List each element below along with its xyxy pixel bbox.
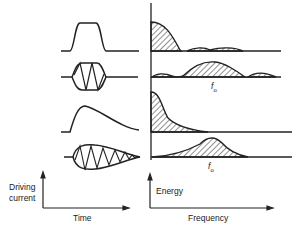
spectrum-row-1 [151, 22, 181, 51]
spectrum-row-3 [151, 92, 208, 132]
spectrum-row-4 [152, 138, 248, 157]
time-label: Time [73, 213, 92, 223]
square-pulse-waveform [61, 23, 139, 51]
spectrum-row-2 [152, 62, 245, 77]
frequency-label: Frequency [188, 213, 228, 223]
diagram-canvas [0, 0, 303, 233]
spectrum-row-1-sidelobes [187, 48, 243, 51]
f0-marker-row-4: fo [208, 161, 214, 175]
energy-label: Energy [156, 186, 183, 196]
exponential-decay-waveform [61, 106, 139, 132]
driving-current-label-line1: Driving [9, 182, 35, 192]
driving-current-label-line2: current [9, 193, 35, 203]
spectrum-row-2-sidelobes [248, 73, 276, 77]
modulated-pulse-waveform [61, 63, 138, 90]
f0-marker-row-2: fo [211, 81, 217, 95]
damped-oscillation-waveform [64, 145, 140, 170]
